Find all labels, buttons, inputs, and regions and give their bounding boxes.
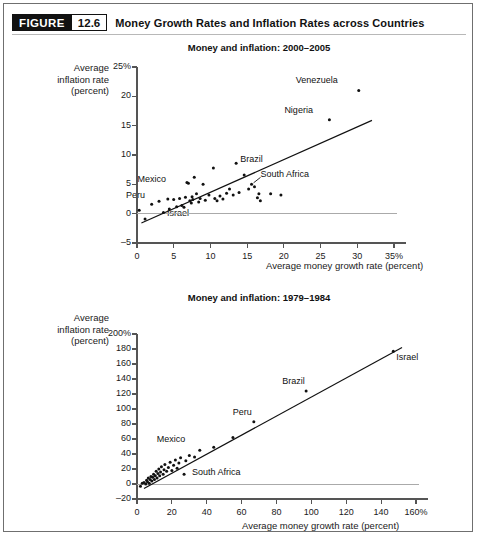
data-point xyxy=(150,480,153,483)
data-point xyxy=(162,473,165,476)
plot-canvas xyxy=(4,4,474,533)
data-point xyxy=(159,471,162,474)
data-point xyxy=(176,467,179,470)
data-point xyxy=(163,468,166,471)
data-point xyxy=(172,464,175,467)
data-point xyxy=(183,473,186,476)
data-point xyxy=(157,468,160,471)
data-point xyxy=(139,485,142,488)
data-point xyxy=(160,465,163,468)
data-point xyxy=(179,456,182,459)
data-point xyxy=(169,461,172,464)
data-point xyxy=(305,390,308,393)
chart-panel-bottom: Money and inflation: 1979–1984 Average i… xyxy=(4,4,474,533)
data-point xyxy=(174,459,177,462)
data-point xyxy=(153,478,156,481)
data-point xyxy=(184,459,187,462)
figure-frame: FIGURE 12.6 Money Growth Rates and Infla… xyxy=(3,3,473,532)
data-point xyxy=(158,474,161,477)
data-point xyxy=(177,462,180,465)
data-point xyxy=(392,350,395,353)
data-point xyxy=(252,420,255,423)
data-point xyxy=(165,470,168,473)
data-point xyxy=(198,449,201,452)
scatter-plot-bottom: –20020406080100120140160180200%020406080… xyxy=(4,4,474,533)
data-point xyxy=(170,469,173,472)
data-point xyxy=(231,436,234,439)
data-point xyxy=(193,456,196,459)
data-point xyxy=(156,477,159,480)
data-point xyxy=(148,482,151,485)
data-point xyxy=(167,466,170,469)
data-point xyxy=(212,446,215,449)
trend-line xyxy=(144,348,402,489)
data-point xyxy=(188,454,191,457)
data-point xyxy=(163,463,166,466)
